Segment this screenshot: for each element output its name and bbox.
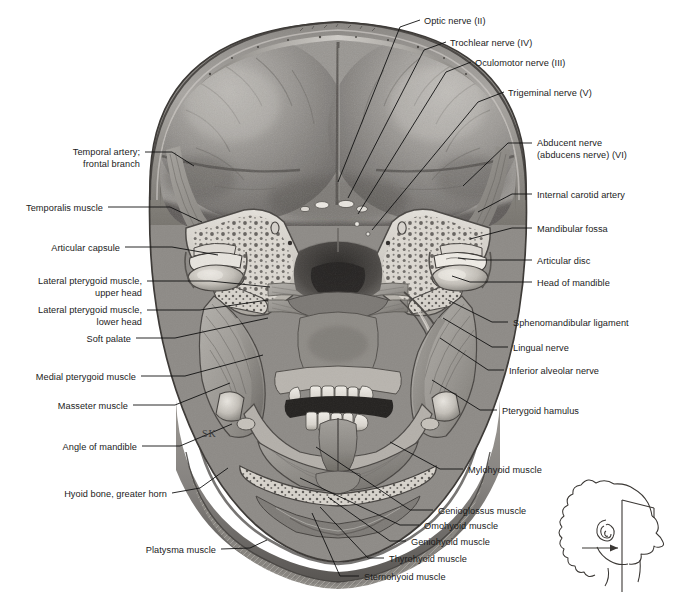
orientation-inset	[0, 0, 676, 594]
figure-root: SK Temporal artery;frontal branchTempora…	[0, 0, 676, 594]
